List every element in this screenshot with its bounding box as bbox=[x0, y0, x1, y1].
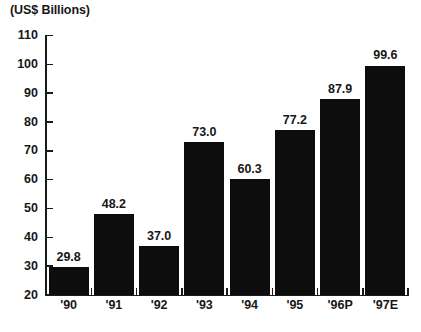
bar-value-label: 29.8 bbox=[42, 251, 95, 264]
bar-value-label: 73.0 bbox=[178, 126, 231, 139]
chart-title: (US$ Billions) bbox=[10, 3, 90, 17]
y-axis-tick-label: 40 bbox=[8, 231, 38, 244]
y-axis-tick-label: 90 bbox=[8, 87, 38, 100]
y-axis-tick-label: 80 bbox=[8, 116, 38, 129]
y-axis-tick-label-text: 100 bbox=[8, 58, 38, 71]
y-axis-tick-label: 60 bbox=[8, 173, 38, 186]
y-axis-tick-label-text: 80 bbox=[8, 116, 38, 129]
x-axis-category-label: '97E bbox=[357, 299, 414, 312]
bar-value-label: 87.9 bbox=[314, 83, 367, 96]
bar-chart: (US$ Billions) 2030405060708090100110 29… bbox=[0, 0, 421, 332]
bar-value-label: 77.2 bbox=[268, 114, 321, 127]
y-axis-tick-label-text: 90 bbox=[8, 87, 38, 100]
y-axis-tick-label: 50 bbox=[8, 202, 38, 215]
y-axis-tick-label-text: 60 bbox=[8, 173, 38, 186]
bar bbox=[275, 130, 315, 295]
bar-value-label: 60.3 bbox=[223, 163, 276, 176]
bar-value-label: 37.0 bbox=[133, 230, 186, 243]
y-axis-tick-label-text: 50 bbox=[8, 202, 38, 215]
bar bbox=[94, 214, 134, 295]
footer-ghost-text bbox=[8, 322, 308, 330]
bar bbox=[139, 246, 179, 295]
bar bbox=[49, 267, 89, 295]
y-axis-tick-label: 110 bbox=[8, 29, 38, 42]
y-axis-tick-label: 20 bbox=[8, 289, 38, 302]
y-axis-tick-label-text: 40 bbox=[8, 231, 38, 244]
bar bbox=[230, 179, 270, 295]
y-axis-tick-label: 100 bbox=[8, 58, 38, 71]
y-axis-tick-label-text: 110 bbox=[8, 29, 38, 42]
y-axis-tick-label: 30 bbox=[8, 260, 38, 273]
bar-value-label: 48.2 bbox=[87, 198, 140, 211]
bar-value-label: 99.6 bbox=[359, 49, 412, 62]
y-axis-tick-label: 70 bbox=[8, 144, 38, 157]
bar bbox=[365, 66, 405, 296]
y-axis-tick-label-text: 20 bbox=[8, 289, 38, 302]
bar bbox=[320, 99, 360, 295]
bar bbox=[184, 142, 224, 295]
y-axis-tick-label-text: 30 bbox=[8, 260, 38, 273]
y-axis-tick-label-text: 70 bbox=[8, 144, 38, 157]
